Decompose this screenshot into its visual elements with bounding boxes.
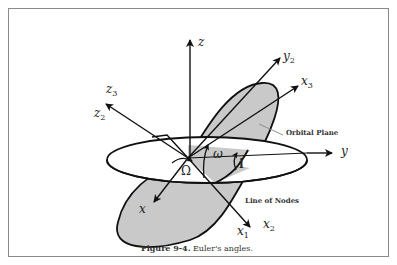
- label-inclination: i: [239, 157, 244, 171]
- label-z3: z3: [106, 83, 117, 98]
- label-y: y: [341, 145, 348, 157]
- label-y2: y2: [283, 50, 295, 65]
- caption-number: Figure 9-4.: [141, 243, 190, 253]
- label-x3: x3: [301, 75, 313, 90]
- line-of-nodes-label: Line of Nodes: [245, 196, 299, 205]
- orbital-plane-label: Orbital Plane: [286, 128, 338, 137]
- label-x2: x2: [263, 218, 275, 233]
- reference-plane: [107, 137, 307, 183]
- label-z2: z2: [94, 107, 105, 122]
- label-x1: x1: [237, 225, 249, 240]
- caption-text: Euler's angles.: [193, 244, 253, 253]
- label-Omega: Ω: [181, 164, 191, 178]
- label-omega: ω: [213, 147, 223, 161]
- label-x: x: [139, 203, 146, 215]
- label-z: z: [198, 36, 204, 48]
- figure-caption: Figure 9-4. Euler's angles.: [141, 243, 253, 253]
